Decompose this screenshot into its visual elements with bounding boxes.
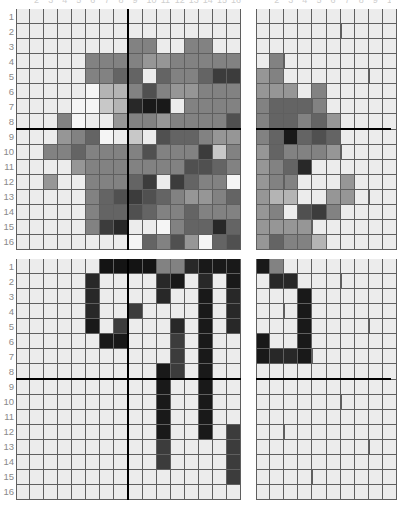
heatmap-cell — [355, 235, 369, 250]
heatmap-cell — [199, 54, 213, 69]
heatmap-cell — [270, 39, 284, 54]
heatmap-cell — [58, 205, 72, 220]
heatmap-cell — [312, 410, 326, 425]
heatmap-cell — [341, 259, 355, 274]
heatmap-cell — [171, 274, 185, 289]
row-label: 10 — [3, 147, 14, 157]
heatmap-cell — [185, 190, 199, 205]
heatmap-cell — [213, 440, 227, 455]
heatmap-cell — [312, 455, 326, 470]
heatmap-cell — [86, 470, 100, 485]
heatmap-cell — [44, 259, 58, 274]
heatmap-cell — [44, 24, 58, 39]
heatmap-cell — [199, 259, 213, 274]
heatmap-cell — [298, 190, 312, 205]
heatmap-cell — [284, 485, 298, 500]
heatmap-cell — [312, 190, 326, 205]
heatmap-cell — [298, 395, 312, 410]
heatmap-cell — [284, 39, 298, 54]
heatmap-cell — [72, 130, 86, 145]
heatmap-cell — [185, 24, 199, 39]
heatmap-cell — [157, 395, 171, 410]
heatmap-cell — [72, 24, 86, 39]
heatmap-cell — [355, 289, 369, 304]
heatmap-cell — [284, 319, 298, 334]
heatmap-cell — [284, 440, 298, 455]
heatmap-cell — [213, 145, 227, 160]
heatmap-cell — [369, 304, 383, 319]
heatmap-cell — [270, 175, 284, 190]
heatmap-cell — [327, 9, 341, 24]
heatmap-cell — [171, 145, 185, 160]
heatmap-cell — [227, 319, 241, 334]
heatmap-cell — [58, 289, 72, 304]
heatmap-cell — [256, 130, 270, 145]
heatmap-cell — [213, 455, 227, 470]
heatmap-cell — [213, 54, 227, 69]
heatmap-cell — [256, 349, 270, 364]
clipped-column-label: 16 — [231, 0, 241, 5]
heatmap-cell — [227, 334, 241, 349]
heatmap-cell — [86, 190, 100, 205]
row-label: 16 — [3, 487, 14, 497]
heatmap-cell — [327, 205, 341, 220]
heatmap-cell — [369, 39, 383, 54]
heatmap-cell — [86, 259, 100, 274]
heatmap-cell — [185, 99, 199, 114]
heatmap-cell — [341, 220, 355, 235]
heatmap-cell — [270, 274, 284, 289]
heatmap-cell — [86, 39, 100, 54]
heatmap-cell — [383, 220, 397, 235]
heatmap-cell — [383, 304, 397, 319]
heatmap-cell — [312, 54, 326, 69]
heatmap-cell — [355, 440, 369, 455]
heatmap-cell — [284, 274, 298, 289]
heatmap-cell — [16, 190, 30, 205]
heatmap-cell — [199, 190, 213, 205]
heatmap-cell — [171, 39, 185, 54]
heatmap-cell — [199, 470, 213, 485]
heatmap-cell — [312, 395, 326, 410]
heatmap-cell — [327, 175, 341, 190]
heatmap-cell — [129, 304, 143, 319]
heatmap-cell — [129, 380, 143, 395]
heatmap-cell — [341, 304, 355, 319]
heatmap-cell — [341, 99, 355, 114]
heatmap-cell — [369, 190, 383, 205]
heatmap-cell — [16, 9, 30, 24]
heatmap-cell — [44, 235, 58, 250]
clipped-column-label: 14 — [203, 0, 213, 5]
heatmap-cell — [199, 395, 213, 410]
heatmap-cell — [143, 455, 157, 470]
heatmap-cell — [157, 69, 171, 84]
heatmap-cell — [129, 220, 143, 235]
heatmap-cell — [256, 160, 270, 175]
heatmap-cell — [256, 145, 270, 160]
heatmap-cell — [30, 289, 44, 304]
heatmap-cell — [355, 160, 369, 175]
heatmap-cell — [256, 84, 270, 99]
heatmap-cell — [100, 319, 114, 334]
heatmap-cell — [355, 205, 369, 220]
heatmap-cell — [30, 9, 44, 24]
row-label: 2 — [9, 277, 14, 287]
heatmap-cell — [213, 235, 227, 250]
heatmap-cell — [44, 175, 58, 190]
heatmap-cell — [256, 470, 270, 485]
heatmap-cell — [157, 220, 171, 235]
heatmap-cell — [284, 99, 298, 114]
heatmap-cell — [129, 39, 143, 54]
heatmap-cell — [129, 99, 143, 114]
heatmap-cell — [327, 190, 341, 205]
heatmap-cell — [227, 440, 241, 455]
clipped-column-label: 9 — [373, 0, 378, 5]
heatmap-cell — [44, 145, 58, 160]
heatmap-cell — [270, 160, 284, 175]
heatmap-cell — [30, 54, 44, 69]
heatmap-cell — [72, 259, 86, 274]
heatmap-cell — [312, 319, 326, 334]
heatmap-cell — [227, 39, 241, 54]
heatmap-cell — [16, 69, 30, 84]
heatmap-cell — [171, 349, 185, 364]
heatmap-cell — [227, 175, 241, 190]
